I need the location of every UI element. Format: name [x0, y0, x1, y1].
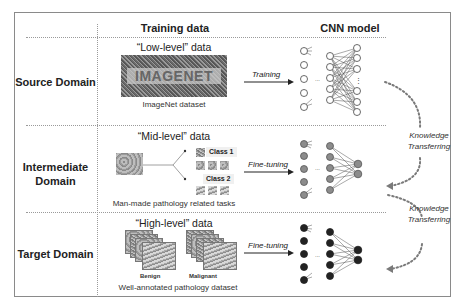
mid-level-data-label: “Mid-level” data — [110, 130, 238, 142]
imagenet-logo-text: IMAGENET — [121, 68, 227, 84]
target-cnn-network: ... — [300, 222, 380, 286]
fine-tuning-arrow-icon-2 — [244, 249, 294, 257]
class2-label: Class 2 — [203, 174, 234, 184]
mid-level-caption: Man-made pathology related tasks — [104, 199, 244, 208]
intermediate-label-line1: Intermediate — [14, 160, 97, 174]
class2-tile-a — [196, 186, 205, 195]
imagenet-caption: ImageNet dataset — [110, 100, 238, 109]
svg-text:...: ... — [315, 252, 320, 258]
intermediate-cnn-network: ... — [300, 138, 380, 200]
training-data-header: Training data — [120, 22, 230, 34]
knowledge-transfer-label-1: Knowledge Transferring — [404, 130, 454, 152]
svg-text:...: ... — [315, 76, 320, 82]
class1-label: Class 1 — [206, 147, 237, 157]
row-divider-1 — [26, 125, 386, 126]
knowledge-transfer-1-line2: Transferring — [404, 141, 454, 152]
class1-tile-c — [208, 161, 217, 170]
class2-tile-b — [208, 186, 217, 195]
malignant-label: Malignant — [189, 273, 217, 279]
high-level-data-label: “High-level” data — [110, 217, 238, 229]
knowledge-transfer-label-2: Knowledge Transferring — [404, 203, 454, 225]
knowledge-transfer-2-line1: Knowledge — [404, 203, 454, 214]
source-domain-label: Source Domain — [14, 75, 97, 89]
benign-label: Benign — [140, 273, 160, 279]
class1-tile-a — [196, 148, 205, 157]
header-divider — [26, 37, 386, 38]
svg-text:⋮: ⋮ — [355, 77, 362, 84]
column-divider — [97, 24, 98, 297]
low-level-data-label: “Low-level” data — [110, 41, 238, 53]
row-divider-2 — [26, 212, 386, 213]
class1-tile-d — [220, 161, 229, 170]
source-cnn-network: ... ⋮ — [300, 44, 380, 116]
fine-tuning-arrow-icon-1 — [244, 168, 294, 176]
class2-tile-c — [220, 186, 229, 195]
benign-slide-4 — [142, 242, 176, 270]
branch-lines — [143, 145, 188, 185]
knowledge-transfer-2-line2: Transferring — [404, 214, 454, 225]
pathology-source-image — [116, 153, 143, 175]
training-arrow-icon — [244, 78, 294, 86]
intermediate-label-line2: Domain — [14, 174, 97, 188]
intermediate-domain-label: Intermediate Domain — [14, 160, 97, 188]
svg-text:...: ... — [315, 165, 320, 171]
imagenet-image: IMAGENET — [121, 55, 227, 97]
knowledge-transfer-1-line1: Knowledge — [404, 130, 454, 141]
high-level-caption: Well-annotated pathology dataset — [108, 283, 248, 292]
knowledge-transfer-arcs — [380, 70, 450, 270]
cnn-model-header: CNN model — [290, 22, 410, 34]
class1-tile-b — [196, 161, 205, 170]
malignant-slide-4 — [203, 242, 237, 270]
target-domain-label: Target Domain — [14, 247, 97, 261]
